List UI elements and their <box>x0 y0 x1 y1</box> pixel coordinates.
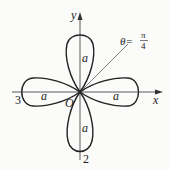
origin-label: O <box>65 96 74 110</box>
y-axis-arrow-icon <box>78 12 83 20</box>
y-axis-label: y <box>70 8 77 22</box>
tip-label-bottom: 2 <box>83 152 89 166</box>
petal-label-right: a <box>113 89 119 103</box>
petal-label-left: a <box>41 89 47 103</box>
ray-label-numerator: π <box>141 30 146 40</box>
rose-curve-diagram: y x O a a a a 3 2 θ= π 4 <box>0 0 169 170</box>
x-axis-label: x <box>152 93 159 107</box>
diagram-svg: y x O a a a a 3 2 θ= π 4 <box>0 0 169 170</box>
tip-label-left: 3 <box>15 93 21 107</box>
petal-label-top: a <box>82 51 88 65</box>
ray-label-denominator: 4 <box>141 41 146 51</box>
petal-label-bottom: a <box>82 121 88 135</box>
ray-label-theta: θ= <box>120 35 133 47</box>
